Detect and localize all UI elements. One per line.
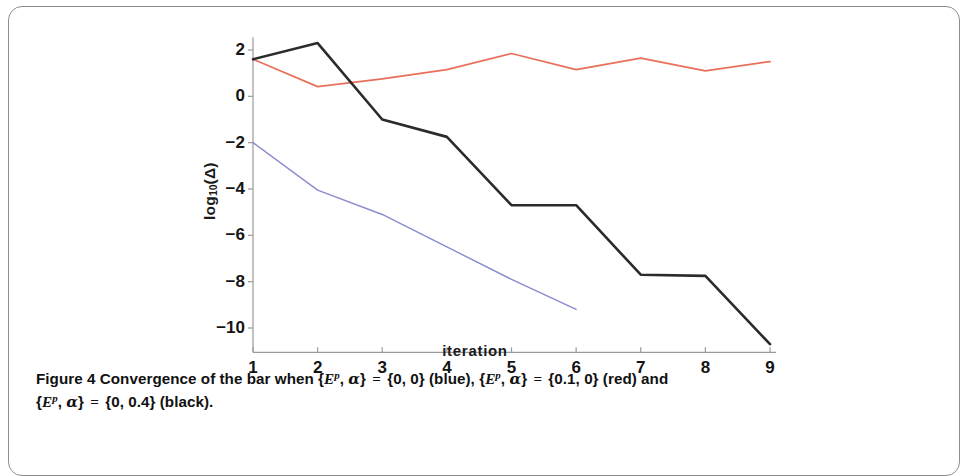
caption-comma-1: , — [340, 370, 349, 387]
x-tick-label: 9 — [765, 358, 774, 378]
caption-alpha-3: α — [66, 393, 78, 411]
caption-figure-number: Figure 4 — [36, 370, 95, 387]
caption-text-a: Convergence of the bar when { — [100, 370, 324, 387]
y-label-base: log — [201, 196, 218, 220]
caption-line-2: {Ep, α} = {0, 0.4} (black). — [36, 391, 726, 414]
caption-brace-2: } — [521, 370, 531, 387]
caption-text-c: {0.1, 0} (red) and — [544, 370, 668, 387]
caption-var-E-3: E — [42, 393, 52, 410]
caption-equals-1: = — [370, 370, 383, 387]
figure-caption: Figure 4 Convergence of the bar when {Ep… — [36, 368, 726, 413]
caption-brace-4: } — [78, 393, 88, 410]
y-axis-label: log10(Δ) — [196, 140, 222, 250]
data-series-group — [253, 43, 770, 344]
y-label-argument: (Δ) — [201, 162, 218, 184]
y-tick-label: −10 — [189, 318, 245, 338]
caption-text-b: {0, 0} (blue), { — [383, 370, 485, 387]
caption-var-E-1: E — [324, 370, 334, 387]
plot-area: 20−2−4−6−8−10123456789 log10(Δ) iteratio… — [0, 0, 950, 360]
caption-var-E-2: E — [485, 370, 495, 387]
caption-text-d: {0, 0.4} (black). — [101, 393, 213, 410]
y-tick-label: 2 — [189, 40, 245, 60]
caption-brace-1: } — [360, 370, 370, 387]
y-label-subscript: 10 — [207, 184, 219, 196]
y-axis-label-text: log10(Δ) — [201, 143, 219, 239]
series-line-0 — [253, 143, 576, 310]
caption-alpha-1: α — [348, 370, 360, 388]
x-axis-label: iteration — [0, 342, 950, 359]
caption-equals-2: = — [531, 370, 544, 387]
y-tick-label: −8 — [189, 272, 245, 292]
caption-alpha-2: α — [509, 370, 521, 388]
caption-comma-3: , — [58, 393, 67, 410]
caption-equals-3: = — [88, 393, 101, 410]
caption-line-1: Figure 4 Convergence of the bar when {Ep… — [36, 368, 726, 391]
y-tick-label: 0 — [189, 86, 245, 106]
convergence-line-chart — [0, 0, 950, 360]
series-line-2 — [253, 43, 770, 344]
